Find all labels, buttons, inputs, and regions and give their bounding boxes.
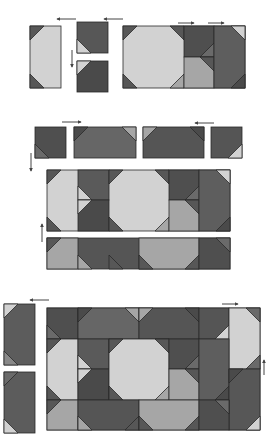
assembled-quilt bbox=[47, 308, 260, 430]
side-border-unit-bottom bbox=[4, 372, 35, 433]
step-3 bbox=[4, 300, 264, 433]
border-square-right bbox=[211, 127, 242, 158]
bottom-border-strip bbox=[47, 238, 230, 269]
side-border-unit-top bbox=[4, 304, 35, 365]
border-rect-1 bbox=[74, 127, 136, 158]
step-2 bbox=[31, 122, 242, 269]
border-square-left bbox=[35, 127, 66, 158]
border-rect-2 bbox=[143, 127, 204, 158]
corner-square-unit bbox=[77, 22, 108, 53]
half-octagon-unit bbox=[30, 26, 61, 88]
octagon-block-row bbox=[123, 26, 245, 88]
center-band bbox=[47, 170, 230, 231]
step-1 bbox=[30, 19, 245, 92]
quilt-assembly-diagram bbox=[0, 0, 271, 440]
corner-square-unit bbox=[77, 61, 108, 92]
